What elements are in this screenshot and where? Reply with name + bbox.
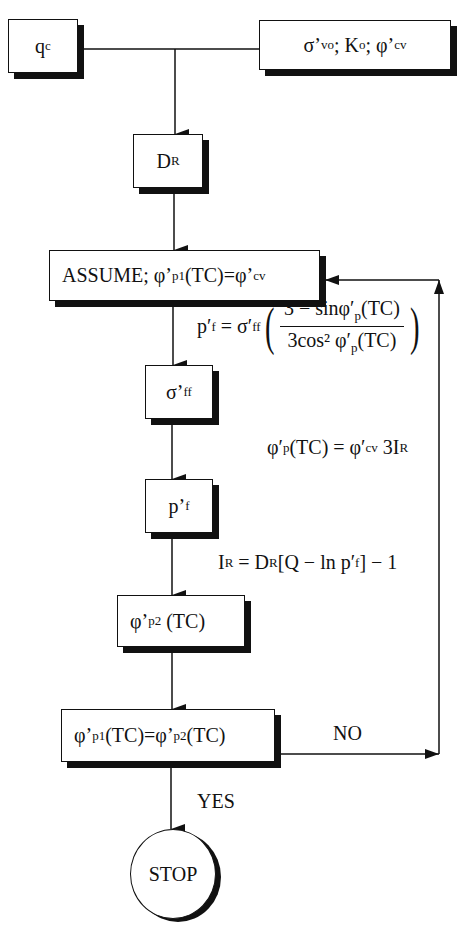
equation-ir: IR = DR[Q − ln p′f] − 1 — [218, 551, 397, 574]
equation-pf: p′f = σ′ff ( 3 − sinφ′p(TC) 3cos² φ′p(TC… — [197, 297, 423, 356]
pf-box: p’f — [145, 479, 213, 533]
decision-box: φ’p1(TC)=φ’p2(TC) — [61, 709, 275, 762]
qc-label: q — [35, 35, 45, 58]
phi-p2-box: φ’p2 (TC) — [117, 595, 245, 647]
yes-label: YES — [197, 790, 235, 813]
input-qc-box: qc — [8, 19, 78, 73]
sigma-ff-box: σ’ff — [145, 365, 213, 419]
assume-box: ASSUME; φ’p1(TC)=φ’cv — [49, 250, 320, 301]
stop-terminal: STOP — [130, 829, 216, 919]
input-state-box: σ’vo; Ko; φ’cv — [259, 20, 451, 70]
no-label: NO — [333, 722, 362, 745]
equation-phi-p: φ′p(TC) = φ′cv 3IR — [267, 436, 408, 459]
dr-box: DR — [133, 134, 203, 188]
